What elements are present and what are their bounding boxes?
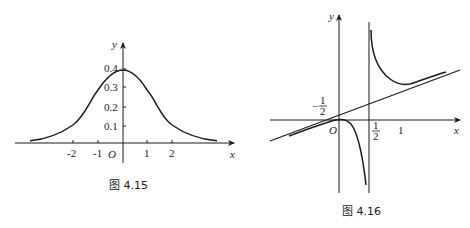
y-tick-label: 0.2 bbox=[104, 101, 118, 113]
x-tick-label: -1 bbox=[93, 147, 102, 159]
x-tick-label: -2 bbox=[67, 147, 76, 159]
x-tick-label: 1 bbox=[144, 147, 150, 159]
y-axis-label: y bbox=[111, 38, 117, 50]
y-axis-label: y bbox=[328, 10, 334, 22]
figures-canvas: y x O -2 -1 1 2 0.1 0.2 0.3 0.4 图 4.15 y… bbox=[0, 0, 470, 228]
y-tick-label: 0.4 bbox=[104, 62, 118, 74]
curve-right-branch bbox=[371, 30, 446, 84]
y-tick-label: 0.1 bbox=[104, 120, 118, 132]
figure-4-15: y x O -2 -1 1 2 0.1 0.2 0.3 0.4 图 4.15 bbox=[15, 38, 235, 192]
figure-caption: 图 4.16 bbox=[342, 205, 381, 218]
svg-text:2: 2 bbox=[320, 105, 326, 117]
x-tick-half-label: 1 2 bbox=[372, 119, 380, 142]
svg-text:2: 2 bbox=[373, 130, 379, 142]
y-intercept-label: − 1 2 bbox=[312, 94, 327, 117]
x-axis-label: x bbox=[229, 148, 235, 160]
origin-label: O bbox=[108, 148, 116, 160]
y-tick-label: 0.3 bbox=[104, 81, 118, 93]
svg-text:−: − bbox=[312, 100, 318, 112]
figure-4-16: y x O 1 2 1 − 1 2 图 4.16 bbox=[270, 10, 460, 218]
origin-label: O bbox=[329, 124, 337, 136]
x-axis-label: x bbox=[453, 124, 459, 136]
oblique-asymptote bbox=[270, 70, 460, 141]
figure-caption: 图 4.15 bbox=[109, 179, 148, 192]
x-tick-label: 2 bbox=[169, 147, 175, 159]
x-tick-one-label: 1 bbox=[398, 124, 404, 136]
